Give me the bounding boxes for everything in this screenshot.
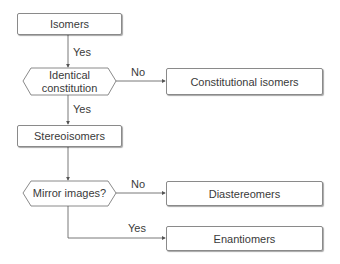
node-isomers: Isomers [17, 13, 122, 35]
edge-label-no-1: No [131, 66, 145, 78]
node-isomers-label: Isomers [50, 18, 89, 30]
edge-label-no-2: No [131, 178, 145, 190]
node-identical-constitution-label: Identical constitution [33, 69, 106, 95]
node-enantiomers-label: Enantiomers [214, 233, 276, 245]
node-mirror-images: Mirror images? [28, 181, 111, 206]
edge-label-yes-3: Yes [128, 222, 146, 234]
node-constitutional-isomers: Constitutional isomers [166, 68, 323, 95]
edge-label-yes-1: Yes [73, 46, 91, 58]
node-stereoisomers: Stereoisomers [17, 125, 122, 147]
node-diastereomers-label: Diastereomers [209, 188, 281, 200]
node-enantiomers: Enantiomers [166, 226, 323, 251]
node-diastereomers: Diastereomers [166, 181, 323, 206]
node-identical-constitution: Identical constitution [33, 68, 106, 95]
node-mirror-images-label: Mirror images? [33, 187, 106, 200]
edge-label-yes-2: Yes [73, 103, 91, 115]
node-stereoisomers-label: Stereoisomers [34, 130, 105, 142]
node-constitutional-isomers-label: Constitutional isomers [190, 76, 298, 88]
